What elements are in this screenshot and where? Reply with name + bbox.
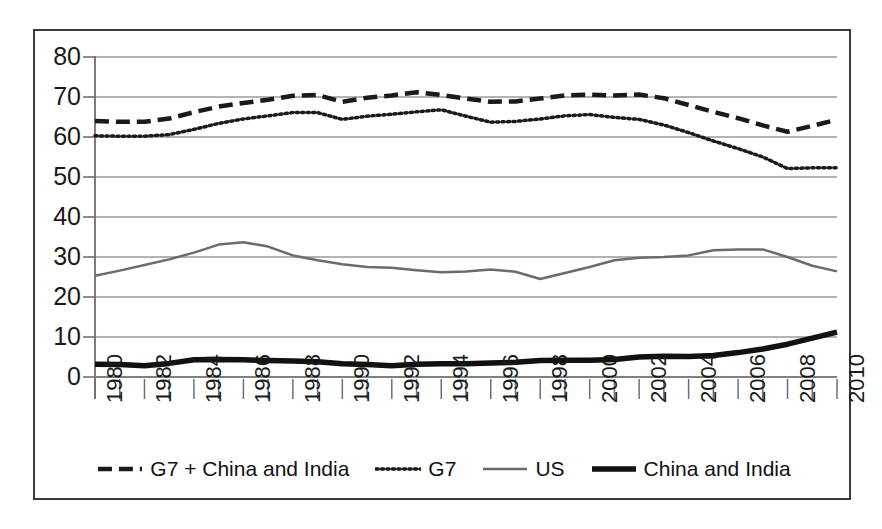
legend-item: G7	[375, 457, 456, 481]
y-tick-label: 40	[29, 204, 81, 229]
legend-item: US	[482, 457, 564, 481]
y-tick-label: 10	[29, 324, 81, 349]
x-tick-label: 1992	[401, 354, 423, 403]
y-tick-label: 80	[29, 44, 81, 69]
x-tick-label: 1986	[252, 354, 274, 403]
y-tick-label: 20	[29, 284, 81, 309]
x-tick-label: 2000	[599, 354, 621, 403]
x-tick-label: 1980	[104, 354, 126, 403]
x-tick-label: 1984	[203, 354, 225, 403]
y-tick-label: 50	[29, 164, 81, 189]
x-tick-label: 2002	[648, 354, 670, 403]
chart-figure: 01020304050607080 1980198219841986198819…	[33, 29, 851, 500]
line-chart-plot	[35, 31, 853, 502]
chart-legend: G7 + China and IndiaG7USChina and India	[35, 449, 853, 489]
series-line-1	[95, 110, 837, 169]
legend-item-label: US	[535, 457, 564, 481]
y-tick-label: 0	[29, 364, 81, 389]
x-tick-label: 2006	[747, 354, 769, 403]
x-tick-label: 2010	[846, 354, 868, 403]
x-tick-label: 1998	[549, 354, 571, 403]
y-tick-label: 30	[29, 244, 81, 269]
solid-thick-line-swatch	[591, 462, 637, 476]
y-tick-label: 70	[29, 84, 81, 109]
legend-item-label: G7	[428, 457, 456, 481]
legend-item-label: G7 + China and India	[150, 457, 349, 481]
dotted-line-swatch	[375, 462, 421, 476]
y-tick-label: 60	[29, 124, 81, 149]
x-tick-label: 1982	[153, 354, 175, 403]
solid-gray-line-swatch	[482, 462, 528, 476]
legend-item: G7 + China and India	[97, 457, 349, 481]
legend-item: China and India	[591, 457, 791, 481]
x-tick-label: 1990	[351, 354, 373, 403]
x-tick-label: 2004	[698, 354, 720, 403]
x-tick-label: 1994	[450, 354, 472, 403]
x-tick-label: 2008	[797, 354, 819, 403]
x-tick-label: 1996	[500, 354, 522, 403]
series-line-2	[95, 242, 837, 279]
dashed-line-swatch	[97, 462, 143, 476]
legend-item-label: China and India	[644, 457, 791, 481]
x-tick-label: 1988	[302, 354, 324, 403]
